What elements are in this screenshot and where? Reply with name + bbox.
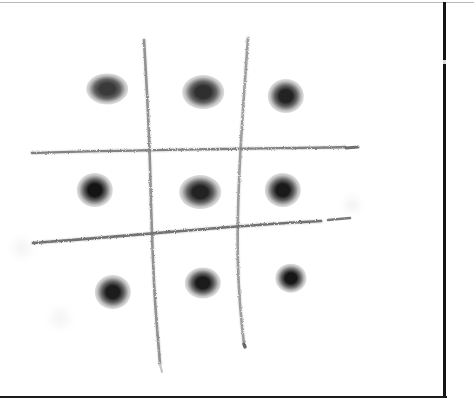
dot-middle-right	[265, 173, 301, 207]
dot-bottom-center	[185, 267, 221, 298]
page-border-top	[0, 2, 474, 3]
dots-layer	[0, 0, 474, 408]
dot-top-center	[182, 75, 224, 109]
dot-top-left	[86, 73, 128, 104]
dot-top-right	[268, 79, 304, 113]
dot-middle-left	[77, 173, 113, 207]
dot-bottom-right	[275, 264, 306, 293]
dot-middle-center	[179, 175, 221, 209]
drawing-canvas	[0, 0, 474, 408]
page-border-bottom	[0, 396, 447, 398]
dot-bottom-left	[95, 275, 131, 309]
scanned-page: Scanned hand-drawn 3x3 dot grid	[0, 0, 474, 408]
page-border-right-nick	[443, 60, 446, 64]
